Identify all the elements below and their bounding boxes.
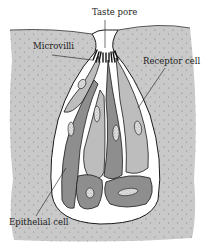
microvilli-label: Microvilli: [33, 42, 74, 51]
receptor-cell-label: Receptor cell: [143, 57, 200, 66]
taste-bud-diagram: Taste pore Microvilli Receptor cell Epit…: [0, 0, 205, 250]
taste-pore-label: Taste pore: [92, 8, 137, 17]
epithelial-cell-label: Epithelial cell: [9, 218, 68, 227]
taste-bud-illustration: [0, 0, 205, 250]
